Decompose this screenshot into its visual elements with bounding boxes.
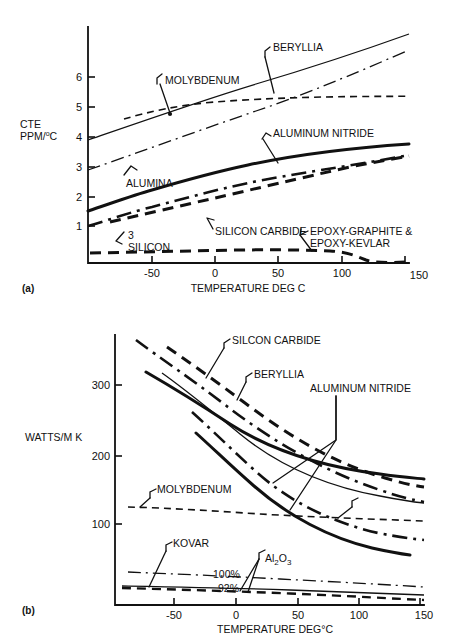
- cte-label-beryllia: BERYLLIA: [273, 41, 323, 53]
- cte-ytick-2: 2: [76, 191, 82, 203]
- cond-curve-molybdenum: [128, 507, 424, 521]
- cte-xtick-150: 150: [410, 269, 428, 281]
- cond-label-kovar: KOVAR: [173, 537, 209, 549]
- cond-silicon-leader-line: [338, 507, 352, 518]
- cond-label-aluminum-nitride: ALUMINUM NITRIDE: [310, 382, 411, 394]
- silicon-leader-a: [116, 232, 124, 244]
- cte-x-ticklabels: -50 0 50 100 150: [144, 267, 428, 281]
- cte-ylabel-line1: CTE: [20, 118, 41, 130]
- cond-xtick-50: 50: [292, 609, 304, 621]
- cte-curve-alumina: [88, 50, 409, 170]
- cond-beryllia-leader-line: [237, 382, 246, 400]
- cte-xtick-100: 100: [333, 267, 351, 279]
- cte-ytick-4: 4: [76, 131, 82, 143]
- figure-container: 6 5 4 3 2 1 -50 0 50 100 150: [0, 0, 459, 641]
- conductivity-x-ticklabels: -50 0 50 100 150: [166, 609, 433, 621]
- cte-y-axis-label: CTE PPM/oC: [20, 118, 58, 142]
- molybdenum-leader-a: [157, 74, 162, 84]
- conductivity-y-ticks: [115, 385, 122, 524]
- cond-ytick-300: 300: [92, 379, 110, 391]
- cond-xtick-100: 100: [350, 609, 368, 621]
- cond-aln-leader-2: [290, 396, 336, 510]
- al2o3-base: Al: [265, 552, 274, 564]
- cond-silicon-leader: [352, 498, 358, 507]
- al2o3-mid: O: [279, 552, 287, 564]
- cond-ytick-200: 200: [92, 450, 110, 462]
- panel-a-cte-chart: 6 5 4 3 2 1 -50 0 50 100 150: [0, 0, 459, 300]
- aln-leader-a: [262, 133, 271, 139]
- cte-label-silicon: SILICON: [128, 241, 170, 253]
- conductivity-x-axis-label: TEMPERATURE DEG°C: [217, 623, 333, 635]
- conductivity-y-axis-label: WATTS/M K: [25, 431, 82, 443]
- cte-y-ticklabels: 6 5 4 3 2 1: [76, 71, 82, 232]
- cte-ytick-3: 3: [76, 161, 82, 173]
- cond-curve-kovar: [128, 572, 424, 587]
- cond-label-silicon-carbide: SILCON CARBIDE: [232, 334, 321, 346]
- cte-ylabel-line2: PPM/: [20, 130, 46, 142]
- cond-sic-leader-line: [206, 348, 224, 378]
- al2o3-sub-3: 3: [287, 558, 292, 567]
- cte-label-aluminum-nitride: ALUMINUM NITRIDE: [273, 127, 374, 139]
- cond-ytick-100: 100: [92, 518, 110, 530]
- cte-chart-svg: 6 5 4 3 2 1 -50 0 50 100 150: [0, 0, 459, 300]
- svg-text:PPM/oC: PPM/oC: [20, 130, 58, 142]
- cte-ytick-1: 1: [76, 220, 82, 232]
- cond-moly-leader: [150, 489, 156, 498]
- cte-footnote-marker: 3: [128, 229, 134, 241]
- cond-aln-leader-1: [273, 396, 336, 483]
- cte-curve-molybdenum: [124, 96, 409, 119]
- cte-xtick--50: -50: [144, 267, 160, 279]
- cond-xtick-0: 0: [233, 609, 239, 621]
- cte-y-ticks: [88, 77, 95, 226]
- cond-label-beryllia: BERYLLIA: [254, 368, 304, 380]
- cond-kovar-leader-line: [149, 551, 166, 587]
- cte-label-epoxy-line2: EPOXY-KEVLAR: [310, 237, 391, 249]
- cond-moly-leader-line: [140, 498, 150, 507]
- cte-label-silicon-carbide: SILICON CARBIDE: [215, 225, 307, 237]
- cte-x-axis-label: TEMPERATURE DEG C: [191, 282, 306, 294]
- cond-label-al2o3-92: 92%: [218, 582, 239, 594]
- cte-xtick-0: 0: [212, 267, 218, 279]
- cond-label-al2o3-100: 100%: [213, 568, 240, 580]
- cte-xtick-50: 50: [272, 267, 284, 279]
- cte-label-molybdenum: MOLYBDENUM: [165, 74, 239, 86]
- cond-beryllia-leader: [246, 373, 252, 382]
- sic-leader-a: [207, 218, 214, 229]
- alumina-leader-a: [124, 166, 137, 175]
- cond-xtick--50: -50: [166, 609, 182, 621]
- cte-ytick-6: 6: [76, 71, 82, 83]
- cond-label-molybdenum: MOLYBDENUM: [157, 483, 231, 495]
- beryllia-leader-a: [265, 47, 270, 57]
- molybdenum-leader-dot: [168, 112, 172, 116]
- cond-kovar-leader: [166, 542, 172, 551]
- panel-b-label: (b): [22, 605, 35, 616]
- cte-ytick-5: 5: [76, 101, 82, 113]
- cte-label-alumina: ALUMINA: [126, 177, 173, 189]
- cond-xtick-150: 150: [415, 609, 433, 621]
- panel-a-label: (a): [22, 283, 34, 294]
- cte-curve-beryllia: [88, 34, 409, 140]
- cte-ylabel-line2-end: C: [50, 130, 58, 142]
- conductivity-y-ticklabels: 300 200 100: [92, 379, 110, 530]
- cte-label-epoxy-line1: EPOXY-GRAPHITE &: [310, 225, 412, 237]
- conductivity-chart-layer: 300 200 100 -50 0 50 100 150 WATTS/M K: [0, 300, 459, 641]
- cond-label-al2o3: Al2O3: [265, 552, 292, 567]
- cond-sic-leader: [224, 339, 230, 348]
- panel-b-conductivity-chart: 300 200 100 -50 0 50 100 150 WATTS/M K: [0, 300, 459, 641]
- beryllia-leader-line-a: [265, 57, 274, 93]
